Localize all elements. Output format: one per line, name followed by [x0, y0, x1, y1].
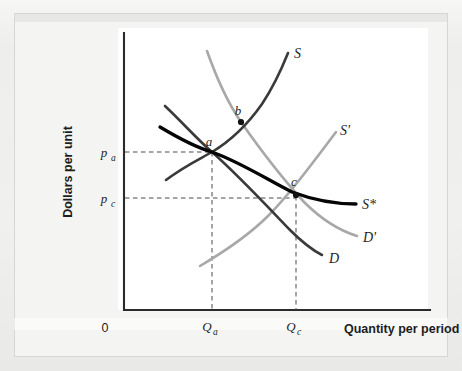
- origin-label: 0: [102, 321, 109, 335]
- dashed-guides: [125, 152, 296, 310]
- y-axis-title: Dollars per unit: [61, 125, 75, 218]
- y-tick-pa-subscript: a: [111, 153, 116, 163]
- figure-root: a b c S S' S* D D' p a p c Q a Q c 0 Qua…: [0, 0, 462, 371]
- curves: [160, 51, 357, 266]
- supply-demand-chart: a b c S S' S* D D' p a p c Q a Q c 0 Qua…: [0, 0, 462, 371]
- curve-D-prime: [207, 51, 357, 236]
- point-label-c: c: [291, 174, 297, 189]
- curve-label-D: D: [328, 251, 339, 266]
- x-axis-title: Quantity per period: [344, 322, 459, 336]
- y-tick-pa-base: p: [100, 145, 108, 160]
- y-tick-pc-base: p: [100, 191, 108, 206]
- x-tick-Qc-subscript: c: [297, 327, 302, 337]
- x-tick-Qa: Q a: [202, 319, 218, 337]
- curve-label-S-prime: S': [340, 123, 351, 138]
- curve-label-D-prime: D': [362, 230, 377, 245]
- point-marker-c: [293, 192, 299, 198]
- x-tick-Qa-base: Q: [202, 319, 212, 334]
- point-label-b: b: [235, 103, 242, 118]
- x-tick-Qc-base: Q: [286, 319, 296, 334]
- x-tick-Qa-subscript: a: [213, 327, 218, 337]
- y-tick-pc: p c: [100, 191, 116, 209]
- point-label-a: a: [206, 134, 213, 149]
- curve-label-S-star: S*: [362, 197, 376, 212]
- point-marker-b: [238, 119, 244, 125]
- curve-label-S: S: [294, 46, 301, 61]
- y-tick-pa: p a: [100, 145, 116, 163]
- x-tick-Qc: Q c: [286, 319, 302, 337]
- y-tick-pc-subscript: c: [111, 199, 116, 209]
